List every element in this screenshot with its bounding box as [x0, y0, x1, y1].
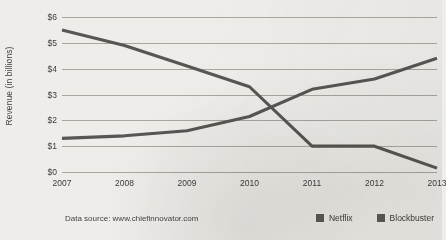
series-line-blockbuster: [62, 30, 437, 168]
x-axis-tick-label: 2010: [240, 178, 259, 188]
x-axis-tick-label: 2012: [365, 178, 384, 188]
y-axis-tick-label: $0: [48, 167, 57, 177]
legend-item[interactable]: Blockbuster: [377, 213, 434, 223]
y-axis-tick-label: $6: [48, 12, 57, 22]
chart-legend: NetflixBlockbuster: [316, 213, 434, 223]
y-axis-tick-label: $1: [48, 141, 57, 151]
x-axis-tick-label: 2008: [115, 178, 134, 188]
y-axis-tick-label: $2: [48, 115, 57, 125]
x-axis-tick-label: 2013: [428, 178, 446, 188]
chart-footer: Data source: www.chiefinnovator.com Netf…: [62, 214, 436, 228]
y-axis-title: Revenue (in billions): [4, 22, 18, 150]
x-axis-tick-label: 2007: [53, 178, 72, 188]
legend-swatch-icon: [377, 214, 385, 222]
legend-label: Blockbuster: [390, 213, 434, 223]
series-line-netflix: [62, 58, 437, 138]
series-lines: [62, 17, 437, 172]
legend-label: Netflix: [329, 213, 353, 223]
x-axis-tick-label: 2011: [303, 178, 321, 188]
legend-item[interactable]: Netflix: [316, 213, 353, 223]
y-axis-tick-label: $5: [48, 38, 57, 48]
x-axis-tick-label: 2009: [178, 178, 197, 188]
legend-swatch-icon: [316, 214, 324, 222]
data-source-note: Data source: www.chiefinnovator.com: [65, 214, 198, 223]
plot-area: $0$1$2$3$4$5$6 2007200820092010201120122…: [62, 17, 437, 172]
gridline: [62, 172, 437, 173]
y-axis-tick-label: $4: [48, 64, 57, 74]
y-axis-tick-label: $3: [48, 90, 57, 100]
